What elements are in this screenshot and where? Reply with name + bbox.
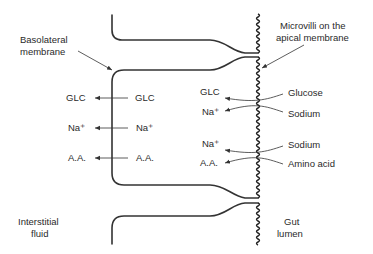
glucose-symport-arrow <box>225 94 283 101</box>
apical2-cell-na: Na⁺ <box>202 138 219 149</box>
apical1-lumen-glucose: Glucose <box>288 87 323 98</box>
upper-cell-membrane <box>112 15 258 53</box>
basolateral-label-line2: membrane <box>20 46 65 57</box>
apical1-cell-glc: GLC <box>200 86 220 97</box>
basolateral-pointer-arrow <box>78 51 112 70</box>
lower-cell-membrane <box>112 203 258 244</box>
baso-out-aa: A.A. <box>68 152 86 163</box>
middle-cell-membrane <box>112 57 258 198</box>
baso-out-na: Na⁺ <box>68 122 85 133</box>
amino-acid-symport-arrow <box>225 158 283 164</box>
baso-out-glc: GLC <box>66 92 86 103</box>
microvilli-top <box>257 14 260 53</box>
microvilli-pointer-arrow <box>262 45 304 68</box>
microvilli-label-line2: apical membrane <box>276 32 349 43</box>
baso-in-glc: GLC <box>135 92 155 103</box>
apical1-lumen-sodium: Sodium <box>288 108 320 119</box>
apical2-cell-aa: A.A. <box>200 157 218 168</box>
transport-diagram: Basolateral membrane Microvilli on the a… <box>0 0 373 254</box>
interstitial-label-line2: fluid <box>31 228 48 239</box>
baso-in-aa: A.A. <box>136 152 154 163</box>
gut-label-line1: Gut <box>284 216 300 227</box>
sodium-symport-arrow-2 <box>225 146 283 153</box>
gut-label-line2: lumen <box>277 228 303 239</box>
basolateral-label-line1: Basolateral <box>20 34 68 45</box>
microvilli-middle <box>257 57 260 198</box>
apical1-cell-na: Na⁺ <box>202 106 219 117</box>
sodium-symport-arrow-1 <box>225 106 283 112</box>
apical2-lumen-amino-acid: Amino acid <box>288 158 335 169</box>
microvilli-bottom <box>257 203 260 245</box>
interstitial-label-line1: Interstitial <box>18 216 59 227</box>
microvilli-label-line1: Microvilli on the <box>280 20 345 31</box>
baso-in-na: Na⁺ <box>136 122 153 133</box>
apical2-lumen-sodium: Sodium <box>288 139 320 150</box>
